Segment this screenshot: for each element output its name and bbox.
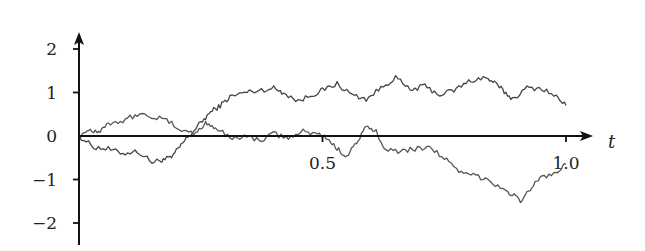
x-tick-label: 0.5 [309,153,336,173]
sample-path-line [79,76,566,164]
y-ticks: 210−1−2 [32,39,79,233]
y-tick-label: −1 [32,170,57,190]
y-tick-label: 1 [46,83,57,103]
x-tick-label: 1.0 [552,153,579,173]
brownian-paths-chart: 210−1−2 0.51.0 t [0,0,645,251]
x-axis-label: t [608,131,616,152]
y-tick-label: 2 [46,39,57,59]
y-tick-label: 0 [46,126,57,146]
y-tick-label: −2 [32,213,57,233]
